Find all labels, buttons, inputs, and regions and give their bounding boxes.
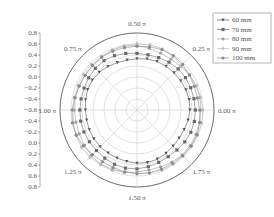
y-tick-label: 0.2 bbox=[28, 62, 37, 70]
y-tick-label: 0.4 bbox=[28, 51, 37, 59]
y-tick-label: 0.6 bbox=[28, 172, 37, 180]
y-tick-label: 0.0 bbox=[28, 139, 37, 147]
legend-label: 100 mm bbox=[232, 54, 256, 62]
legend-label: 60 mm bbox=[232, 16, 252, 24]
legend-label: 70 mm bbox=[232, 26, 252, 34]
legend-label: 90 mm bbox=[232, 45, 252, 53]
y-tick-label: 0.8 bbox=[28, 183, 37, 191]
angle-label: 0.25 π bbox=[193, 45, 211, 53]
legend: 60 mm70 mm80 mm90 mm100 mm bbox=[213, 13, 271, 63]
angle-label: 1.75 π bbox=[193, 168, 211, 176]
y-tick-label: −0.2 bbox=[24, 84, 37, 92]
y-tick-label: 0.4 bbox=[28, 161, 37, 169]
angle-label: 1.00 π bbox=[38, 107, 56, 115]
y-tick-label: −0.2 bbox=[24, 128, 37, 136]
y-tick-label: −0.4 bbox=[24, 117, 37, 125]
angle-label: 0.00 π bbox=[218, 107, 236, 115]
angle-label: 1.25 π bbox=[64, 168, 82, 176]
angle-label: 0.75 π bbox=[64, 45, 82, 53]
y-tick-label: −0.4 bbox=[24, 95, 37, 103]
y-tick-label: 0.2 bbox=[28, 150, 37, 158]
y-tick-label: 0.6 bbox=[28, 40, 37, 48]
y-tick-label: 0.8 bbox=[28, 29, 37, 37]
data-series bbox=[70, 42, 204, 176]
angle-label: 1.50 π bbox=[128, 194, 146, 202]
series-70-mm bbox=[78, 52, 197, 171]
polar-chart: 0.80.60.40.20.0−0.2−0.4−0.6−0.4−0.20.00.… bbox=[0, 0, 274, 217]
legend-label: 80 mm bbox=[232, 35, 252, 43]
y-tick-label: 0.0 bbox=[28, 73, 37, 81]
angle-label: 0.50 π bbox=[128, 20, 146, 28]
y-tick-label: −0.6 bbox=[24, 106, 37, 114]
